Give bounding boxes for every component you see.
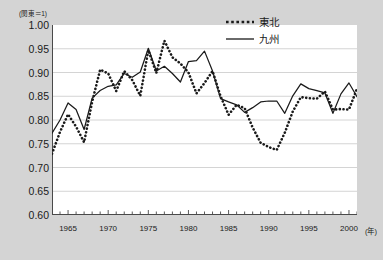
x-tick-label: 1985 [220,224,238,233]
y-tick-label: 0.80 [3,114,49,126]
chart-legend: 東北 九州 [225,13,307,47]
solid-line-icon [225,34,255,44]
x-tick-label: 1970 [99,224,117,233]
x-tick-label: 1990 [260,224,278,233]
series-line-tohoku [52,41,357,154]
x-tick-label: 2000 [340,224,358,233]
x-axis-tick-labels: (年) 19651970197519801985199019952000 [52,224,357,238]
x-tick-label: 1965 [59,224,77,233]
axis-note: (関東＝1) [19,8,47,18]
x-tick-label: 1980 [180,224,198,233]
y-tick-label: 0.85 [3,90,49,102]
series-line-kyushu [52,48,357,133]
chart-figure: (関東＝1) 1.000.950.900.850.800.750.700.650… [0,0,383,260]
y-axis-tick-labels: 1.000.950.900.850.800.750.700.650.60 [0,25,49,215]
x-tick-label: 1975 [139,224,157,233]
y-tick-label: 1.00 [3,19,49,31]
y-tick-label: 0.75 [3,138,49,150]
x-tick-label: 1995 [300,224,318,233]
y-tick-label: 0.90 [3,67,49,79]
y-tick-label: 0.95 [3,43,49,55]
y-tick-label: 0.60 [3,209,49,221]
dotted-line-icon [225,17,255,27]
y-tick-label: 0.65 [3,185,49,197]
y-tick-label: 0.70 [3,162,49,174]
x-axis-unit-label: (年) [365,225,377,236]
legend-label-kyushu: 九州 [259,31,279,46]
legend-item-tohoku: 東北 [225,13,307,30]
plot-area [52,25,357,215]
legend-item-kyushu: 九州 [225,30,307,47]
plot-svg [52,25,357,215]
legend-label-tohoku: 東北 [259,14,279,29]
